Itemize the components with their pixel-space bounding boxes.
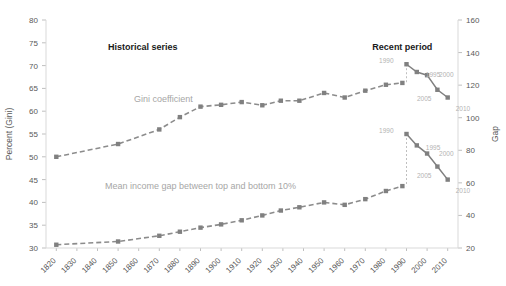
data-point-marker <box>384 83 388 87</box>
data-point-marker <box>260 103 264 107</box>
chart-text: 2000 <box>439 150 454 157</box>
chart-text: 140 <box>466 49 480 58</box>
recent-period-label: Recent period <box>372 42 432 52</box>
data-point-marker <box>54 243 58 247</box>
data-point-marker <box>219 103 223 107</box>
chart-text: 2005 <box>417 172 432 179</box>
chart-text: 80 <box>466 146 475 155</box>
data-point-marker <box>446 177 450 181</box>
chart-text: 2005 <box>417 95 432 102</box>
data-point-marker <box>157 234 161 238</box>
data-point-marker <box>446 95 450 99</box>
chart-text: 20 <box>466 244 475 253</box>
chart-text: 2010 <box>456 105 471 112</box>
data-point-marker <box>198 104 202 108</box>
data-point-marker <box>322 200 326 204</box>
data-point-marker <box>240 218 244 222</box>
data-point-marker <box>297 205 301 209</box>
data-point-marker <box>116 142 120 146</box>
data-point-marker <box>400 81 404 85</box>
data-point-marker <box>363 197 367 201</box>
gini-series-label: Gini coefficient <box>134 94 193 104</box>
data-point-marker <box>425 151 429 155</box>
data-point-marker <box>178 115 182 119</box>
chart-text: 120 <box>466 81 480 90</box>
chart-text: 2000 <box>439 71 454 78</box>
chart-text: 30 <box>29 244 38 253</box>
chart-text: 40 <box>466 211 475 220</box>
data-point-marker <box>343 203 347 207</box>
data-point-marker <box>279 99 283 103</box>
chart-text: 55 <box>29 130 38 139</box>
data-point-marker <box>415 143 419 147</box>
dual-axis-line-chart: 3035404550556065707580 20406080100120140… <box>0 0 506 286</box>
data-point-marker <box>435 88 439 92</box>
chart-text: 45 <box>29 176 38 185</box>
chart-text: 40 <box>29 198 38 207</box>
data-point-marker <box>279 208 283 212</box>
data-point-marker <box>178 230 182 234</box>
data-point-marker <box>435 164 439 168</box>
data-point-marker <box>240 100 244 104</box>
data-point-marker <box>297 99 301 103</box>
chart-text: 50 <box>29 153 38 162</box>
chart-text: 2010 <box>456 187 471 194</box>
data-point-marker <box>54 155 58 159</box>
data-point-marker <box>384 189 388 193</box>
y-axis-right-title: Gap <box>490 126 500 142</box>
chart-text: 75 <box>29 39 38 48</box>
chart-text: 35 <box>29 221 38 230</box>
y-axis-left-title: Percent (Gini) <box>4 108 14 161</box>
data-point-marker <box>219 222 223 226</box>
chart-text: 1990 <box>379 127 394 134</box>
chart-text: 80 <box>29 16 38 25</box>
chart-text: 70 <box>29 62 38 71</box>
gap-series-label: Mean income gap between top and bottom 1… <box>105 181 296 191</box>
data-point-marker <box>415 70 419 74</box>
data-point-marker <box>322 91 326 95</box>
chart-text: 60 <box>29 107 38 116</box>
chart-text: 65 <box>29 84 38 93</box>
chart-text: 100 <box>466 114 480 123</box>
data-point-marker <box>157 127 161 131</box>
chart-text: 1990 <box>379 57 394 64</box>
historical-series-label: Historical series <box>108 42 178 52</box>
data-point-marker <box>404 62 408 66</box>
chart-container: 3035404550556065707580 20406080100120140… <box>0 0 506 286</box>
data-point-marker <box>363 88 367 92</box>
data-point-marker <box>404 132 408 136</box>
data-point-marker <box>400 184 404 188</box>
data-point-marker <box>343 95 347 99</box>
chart-text: 160 <box>466 16 480 25</box>
data-point-marker <box>198 225 202 229</box>
data-point-marker <box>116 239 120 243</box>
data-point-marker <box>260 213 264 217</box>
